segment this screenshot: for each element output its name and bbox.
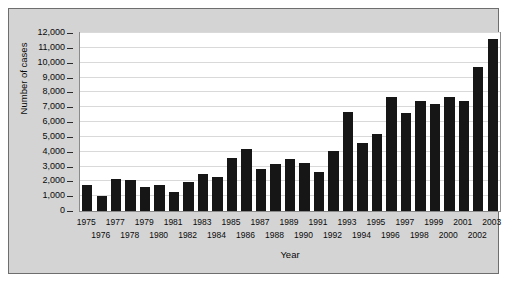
bar (154, 185, 164, 211)
y-tick-mark (67, 48, 73, 49)
bar (140, 187, 150, 211)
bar (357, 143, 367, 211)
y-tick-label: 0 (60, 206, 65, 215)
x-tick-label: 1990 (294, 230, 313, 240)
bar (430, 104, 440, 211)
bar (198, 174, 208, 211)
x-tick-label: 2000 (439, 230, 458, 240)
x-tick-label: 1977 (106, 217, 125, 227)
x-tick-label: 1998 (410, 230, 429, 240)
y-axis: Number of cases 01,0002,0003,0004,0005,0… (9, 9, 79, 235)
x-tick-label: 1976 (91, 230, 110, 240)
x-axis: 1975197619771978197919801981198219831984… (79, 213, 501, 253)
x-tick-label: 2001 (453, 217, 472, 227)
figure: Number of cases 01,0002,0003,0004,0005,0… (0, 0, 508, 284)
y-tick-mark (67, 33, 73, 34)
y-axis-title: Number of cases (18, 19, 29, 139)
x-tick-label: 1991 (308, 217, 327, 227)
bar (111, 179, 121, 211)
y-tick-mark (67, 137, 73, 138)
x-tick-label: 1985 (222, 217, 241, 227)
bar (372, 134, 382, 211)
y-tick-mark (67, 196, 73, 197)
bar (415, 101, 425, 212)
y-tick-mark (67, 78, 73, 79)
y-tick-mark (67, 107, 73, 108)
bar (343, 112, 353, 211)
bar (285, 159, 295, 211)
y-tick-mark (67, 167, 73, 168)
x-tick-label: 1997 (395, 217, 414, 227)
y-tick-mark (67, 152, 73, 153)
x-tick-label: 1983 (193, 217, 212, 227)
y-tick-label: 10,000 (37, 58, 65, 67)
x-tick-label: 1996 (381, 230, 400, 240)
x-tick-label: 1999 (424, 217, 443, 227)
y-tick-label: 9,000 (42, 73, 65, 82)
bar (82, 185, 92, 211)
y-tick-mark (67, 181, 73, 182)
x-tick-label: 1975 (77, 217, 96, 227)
y-tick-label: 12,000 (37, 28, 65, 37)
x-axis-title: Year (79, 249, 501, 260)
bar (169, 192, 179, 211)
y-tick-label: 8,000 (42, 87, 65, 96)
y-tick-label: 5,000 (42, 132, 65, 141)
x-tick-label: 1989 (280, 217, 299, 227)
x-tick-label: 1992 (323, 230, 342, 240)
x-tick-label: 2003 (482, 217, 501, 227)
y-tick-mark (67, 63, 73, 64)
x-tick-label: 2002 (468, 230, 487, 240)
bar (314, 172, 324, 211)
y-tick-label: 6,000 (42, 117, 65, 126)
bar (459, 101, 469, 212)
x-tick-label: 1982 (178, 230, 197, 240)
bar (125, 180, 135, 211)
bar (183, 182, 193, 211)
y-tick-label: 3,000 (42, 162, 65, 171)
bar (328, 151, 338, 211)
bar (241, 149, 251, 211)
x-tick-label: 1984 (207, 230, 226, 240)
y-tick-label: 2,000 (42, 176, 65, 185)
x-tick-label: 1978 (120, 230, 139, 240)
x-tick-label: 1979 (135, 217, 154, 227)
bar (212, 177, 222, 211)
x-tick-label: 1981 (164, 217, 183, 227)
x-tick-label: 1993 (337, 217, 356, 227)
bar (270, 164, 280, 211)
bar (473, 67, 483, 211)
bar (488, 39, 498, 211)
bar (299, 163, 309, 211)
y-tick-label: 7,000 (42, 102, 65, 111)
plot-area (79, 32, 501, 212)
bar (401, 113, 411, 211)
x-tick-label: 1988 (265, 230, 284, 240)
bar (256, 169, 266, 211)
x-tick-label: 1995 (366, 217, 385, 227)
bar-series (80, 33, 500, 211)
bar (227, 158, 237, 211)
x-tick-label: 1980 (149, 230, 168, 240)
bar (97, 196, 107, 211)
y-tick-mark (67, 122, 73, 123)
x-tick-label: 1987 (251, 217, 270, 227)
x-tick-label: 1986 (236, 230, 255, 240)
y-tick-label: 1,000 (42, 191, 65, 200)
y-tick-mark (67, 211, 73, 212)
y-tick-mark (67, 92, 73, 93)
bar (444, 97, 454, 211)
y-tick-label: 11,000 (38, 43, 65, 52)
y-tick-label: 4,000 (42, 147, 65, 156)
chart-panel: Number of cases 01,0002,0003,0004,0005,0… (8, 8, 499, 274)
x-tick-label: 1994 (352, 230, 371, 240)
bar (386, 97, 396, 211)
